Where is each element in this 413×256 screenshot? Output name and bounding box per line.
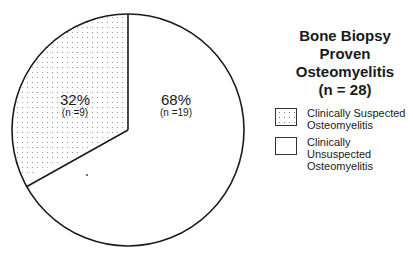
slice-percent: 68% bbox=[154, 92, 198, 107]
legend-label-line: Clinically Unsuspected bbox=[307, 136, 413, 160]
legend-label-line: Osteomyelitis bbox=[307, 160, 413, 172]
legend-label-line: Osteomyelitis bbox=[307, 119, 413, 131]
legend-swatch-dotted bbox=[275, 108, 297, 126]
legend-label: Clinically Unsuspected Osteomyelitis bbox=[307, 136, 413, 172]
slice-percent: 32% bbox=[55, 92, 95, 107]
stray-dot bbox=[86, 174, 88, 176]
chart-title-line: (n = 28) bbox=[283, 81, 407, 99]
legend-swatch-white bbox=[275, 137, 297, 155]
legend-item-unsuspected: Clinically Unsuspected Osteomyelitis bbox=[275, 136, 413, 172]
chart-title-line: Bone Biopsy Proven bbox=[283, 27, 407, 63]
legend-label: Clinically Suspected Osteomyelitis bbox=[307, 107, 413, 131]
slice-count: (n =19) bbox=[154, 108, 198, 118]
chart-title: Bone Biopsy Proven Osteomyelitis (n = 28… bbox=[283, 27, 407, 99]
legend-label-line: Clinically Suspected bbox=[307, 107, 413, 119]
slice-label-unsuspected: 68% (n =19) bbox=[154, 92, 198, 118]
legend-item-suspected: Clinically Suspected Osteomyelitis bbox=[275, 107, 413, 131]
slice-count: (n =9) bbox=[55, 108, 95, 118]
pie-chart bbox=[0, 0, 260, 256]
chart-title-line: Osteomyelitis bbox=[283, 63, 407, 81]
slice-label-suspected: 32% (n =9) bbox=[55, 92, 95, 118]
